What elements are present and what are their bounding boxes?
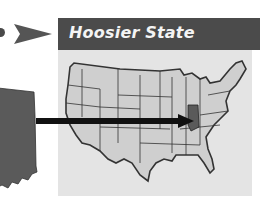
pointer-arrow-icon — [14, 24, 52, 44]
indiana-silhouette — [0, 86, 40, 190]
title-banner: Hoosier State — [58, 18, 260, 50]
bullet-dot-icon — [0, 28, 5, 37]
connector-arrow — [36, 114, 196, 128]
banner-title: Hoosier State — [69, 23, 195, 42]
